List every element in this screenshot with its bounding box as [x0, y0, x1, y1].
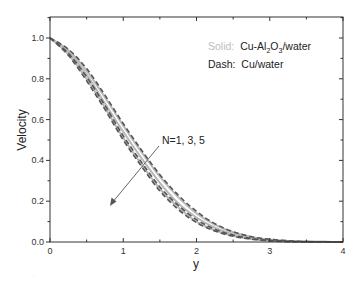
y-tick-label: 0.4	[31, 155, 44, 165]
stray-dot: .	[33, 271, 35, 277]
y-tick-label: 0.8	[31, 74, 44, 84]
legend-entry-dash: Dash: Cu/water	[208, 58, 284, 70]
y-tick-label: 0.0	[31, 237, 44, 247]
annotation-label: N=1, 3, 5	[162, 134, 205, 146]
x-tick-label: 0	[47, 246, 52, 256]
y-tick-label: 1.0	[31, 33, 44, 43]
legend-key-dash: Dash:	[208, 58, 235, 70]
x-tick-label: 2	[194, 246, 199, 256]
x-tick-label: 4	[340, 246, 345, 256]
legend-label-solid-c: /water	[282, 40, 311, 52]
legend-entry-solid: Solid: Cu-Al2O3/water	[208, 40, 312, 54]
legend-key-solid: Solid:	[208, 40, 234, 52]
legend-label-dash: Cu/water	[241, 58, 284, 70]
y-axis-label: Velocity	[15, 109, 29, 150]
x-axis-label: y	[193, 257, 199, 271]
y-tick-label: 0.6	[31, 115, 44, 125]
y-tick-label: 0.2	[31, 196, 44, 206]
legend-label-solid-b: O	[270, 40, 278, 52]
x-tick-label: 1	[121, 246, 126, 256]
legend-label-solid-a: Cu-Al	[240, 40, 266, 52]
legend: Solid: Cu-Al2O3/water Dash: Cu/water	[208, 40, 312, 70]
velocity-chart: 012340.00.20.40.60.81.0 y Velocity Solid…	[0, 0, 359, 285]
annotation: N=1, 3, 5	[110, 134, 205, 206]
x-tick-label: 3	[267, 246, 272, 256]
